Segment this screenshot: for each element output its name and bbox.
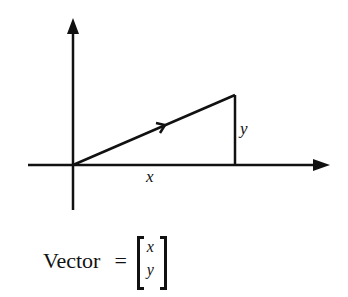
y-axis-arrowhead-icon [67,18,79,34]
vector-component-x: x [147,238,154,256]
formula-lhs: Vector [43,248,100,274]
equals-sign: = [114,248,126,274]
vector-component-y: y [147,261,154,279]
right-bracket [160,236,167,290]
column-vector: x y [137,236,167,286]
y-component-label: y [240,120,248,137]
vector-line [73,95,235,165]
left-bracket [137,236,144,290]
vector-formula: Vector = x y [43,236,167,286]
x-component-label: x [146,168,154,185]
x-axis-arrowhead-icon [313,159,330,171]
